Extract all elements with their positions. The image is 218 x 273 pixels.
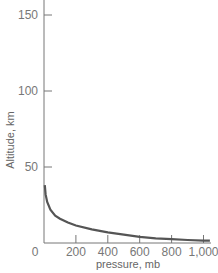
y-ticks: 50100150 xyxy=(18,8,52,174)
x-tick-label: 0 xyxy=(32,245,39,259)
x-ticks: 02004006008001,000 xyxy=(32,235,218,259)
x-tick-label: 200 xyxy=(66,245,86,259)
x-tick-label: 1,000 xyxy=(188,245,218,259)
x-axis-label: pressure, mb xyxy=(96,258,160,270)
data-line xyxy=(45,185,210,241)
y-tick-label: 100 xyxy=(18,84,38,98)
x-tick-label: 600 xyxy=(130,245,150,259)
y-axis-label: Altitude, km xyxy=(4,111,16,168)
y-tick-label: 50 xyxy=(25,160,39,174)
axes xyxy=(44,0,211,243)
chart: 50100150 02004006008001,000 pressure, mb… xyxy=(0,0,218,273)
y-tick-label: 150 xyxy=(18,8,38,22)
x-tick-label: 800 xyxy=(162,245,182,259)
x-tick-label: 400 xyxy=(98,245,118,259)
